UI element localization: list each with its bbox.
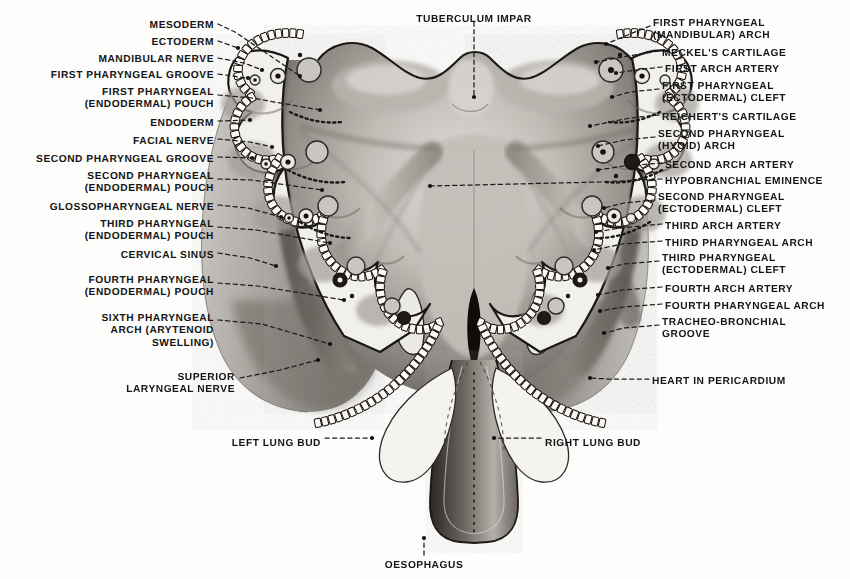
leader-second-arch-dot — [596, 144, 600, 148]
label-oesophagus: OESOPHAGUS — [274, 560, 574, 572]
ectoderm-cell — [317, 224, 326, 231]
leader-fourth-arch-dot — [598, 309, 602, 313]
ectoderm-cell — [376, 276, 385, 283]
leader-second-groove-dot — [250, 156, 254, 160]
leader-first-cleft-dot — [610, 95, 614, 99]
label-first-pharyngeal-arch: FIRST PHARYNGEAL (MANDIBULAR) ARCH — [653, 18, 850, 43]
label-left-lung-bud: LEFT LUNG BUD — [0, 438, 321, 450]
ectoderm-cell — [264, 187, 273, 194]
label-ectoderm: ECTODERM — [0, 37, 214, 49]
ectoderm-cell — [314, 418, 322, 428]
leader-third-artery-dot — [594, 230, 598, 234]
label-hypobranchial-eminence: HYPOBRANCHIAL EMINENCE — [665, 176, 850, 188]
leader-heart-dot — [588, 376, 592, 380]
label-second-pharyngeal-arch: SECOND PHARYNGEAL (HYOID) ARCH — [658, 129, 850, 154]
ectoderm-cell — [598, 418, 606, 428]
leader-fourth-artery-dot — [596, 293, 600, 297]
ectoderm-cell — [282, 29, 289, 38]
leader-ectoderm — [218, 41, 238, 48]
leader-reicherts-dot — [588, 124, 592, 128]
figure-canvas: TUBERCULUM IMPARMESODERMECTODERMMANDIBUL… — [0, 0, 850, 579]
ectoderm-cell — [647, 180, 656, 187]
leader-mandibular-nerve-dot — [260, 68, 264, 72]
leader-second-artery-dot — [596, 168, 600, 172]
leader-meckels-dot — [594, 60, 598, 64]
label-second-arch-artery: SECOND ARCH ARTERY — [665, 160, 850, 172]
ectoderm-cell — [234, 65, 243, 72]
label-right-lung-bud: RIGHT LUNG BUD — [545, 438, 850, 450]
leader-mesoderm-dot — [298, 74, 302, 78]
leader-first-artery-dot — [614, 71, 618, 75]
label-fourth-pharyngeal-pouch: FOURTH PHARYNGEAL (ENDODERMAL) POUCH — [0, 275, 214, 300]
label-fourth-arch-artery: FOURTH ARCH ARTERY — [665, 284, 850, 296]
ectoderm-cell — [535, 290, 544, 297]
ectoderm-cell — [647, 187, 656, 194]
label-third-pharyngeal-pouch: THIRD PHARYNGEAL (ENDODERMAL) POUCH — [0, 219, 214, 244]
label-tuberculum-impar: TUBERCULUM IMPAR — [324, 14, 624, 26]
label-heart-in-pericardium: HEART IN PERICARDIUM — [652, 376, 850, 388]
ectoderm-cell — [594, 224, 603, 231]
ectoderm-cell — [230, 124, 239, 130]
leader-ectoderm-dot — [236, 46, 240, 50]
ectoderm-cell — [275, 29, 282, 38]
ectoderm-cell — [504, 324, 512, 334]
label-reicherts-cartilage: REICHERT'S CARTILAGE — [662, 112, 850, 124]
leader-second-pouch-dot — [320, 188, 324, 192]
label-second-pharyngeal-cleft: SECOND PHARYNGEAL (ECTODERMAL) CLEFT — [658, 192, 850, 217]
leader-left-lung-bud-dot — [370, 436, 374, 440]
ectoderm-cell — [296, 29, 303, 38]
leader-first-pharyngeal-groove-dot — [246, 76, 250, 80]
ectoderm-cell — [535, 276, 544, 283]
leader-tuberculum-impar-dot — [472, 95, 476, 99]
leader-first-pouch-dot — [318, 108, 322, 112]
label-first-arch-artery: FIRST ARCH ARTERY — [665, 64, 850, 76]
label-facial-nerve: FACIAL NERVE — [0, 136, 214, 148]
leader-first-arch-dot — [604, 42, 608, 46]
ectoderm-cell — [264, 180, 273, 187]
label-second-pharyngeal-pouch: SECOND PHARYNGEAL (ENDODERMAL) POUCH — [0, 171, 214, 196]
ectoderm-cell — [591, 416, 599, 426]
label-first-pharyngeal-groove: FIRST PHARYNGEAL GROOVE — [0, 70, 214, 82]
leader-third-cleft-dot — [606, 266, 610, 270]
label-third-arch-artery: THIRD ARCH ARTERY — [665, 221, 850, 233]
label-superior-laryngeal-nerve: SUPERIOR LARYNGEAL NERVE — [0, 372, 235, 397]
ectoderm-cell — [616, 29, 623, 38]
label-tracheo-bronchial-groove: TRACHEO-BRONCHIAL GROOVE — [662, 317, 850, 342]
tuberculum-impar-shape — [448, 59, 493, 116]
label-first-pharyngeal-pouch: FIRST PHARYNGEAL (ENDODERMAL) POUCH — [0, 87, 214, 112]
label-first-pharyngeal-cleft: FIRST PHARYNGEAL (ECTODERMAL) CLEFT — [662, 81, 850, 106]
ectoderm-cell — [409, 324, 417, 334]
leader-endoderm-dot — [248, 118, 252, 122]
leader-third-pouch-dot — [328, 241, 332, 245]
ectoderm-cell — [376, 290, 385, 297]
leader-cervical-sinus-dot — [274, 264, 278, 268]
leader-right-lung-bud-dot — [492, 436, 496, 440]
ectoderm-cell — [321, 416, 329, 426]
label-meckels-cartilage: MECKEL'S CARTILAGE — [662, 48, 850, 60]
leader-facial-nerve-dot — [270, 145, 274, 149]
label-third-pharyngeal-cleft: THIRD PHARYNGEAL (ECTODERMAL) CLEFT — [662, 253, 850, 278]
leader-fourth-pouch-dot — [342, 298, 346, 302]
leader-third-arch-dot — [592, 248, 596, 252]
label-mandibular-nerve: MANDIBULAR NERVE — [0, 54, 214, 66]
leader-second-cleft-dot — [602, 206, 606, 210]
label-sixth-pharyngeal-arch: SIXTH PHARYNGEAL ARCH (ARYTENOID SWELLIN… — [0, 313, 214, 350]
ectoderm-cell — [376, 283, 385, 289]
label-third-pharyngeal-arch: THIRD PHARYNGEAL ARCH — [665, 238, 850, 250]
leader-glossopharyngeal-dot — [279, 215, 283, 219]
ectoderm-cell — [230, 116, 240, 124]
label-fourth-pharyngeal-arch: FOURTH PHARYNGEAL ARCH — [665, 301, 850, 313]
ectoderm-cell — [416, 325, 422, 334]
leader-hypobranchial-dot — [428, 184, 432, 188]
label-cervical-sinus: CERVICAL SINUS — [0, 250, 214, 262]
leader-heart — [590, 378, 649, 379]
ectoderm-cell — [497, 325, 503, 334]
leader-tracheo-groove-dot — [602, 331, 606, 335]
leader-oesophagus-dot — [422, 536, 426, 540]
label-endoderm: ENDODERM — [0, 118, 214, 130]
ectoderm-cell — [289, 29, 296, 38]
label-mesoderm: MESODERM — [0, 20, 214, 32]
leader-sixth-arch-dot — [328, 342, 332, 346]
ectoderm-cell — [536, 283, 545, 289]
label-glossopharyngeal-nerve: GLOSSOPHARYNGEAL NERVE — [0, 202, 214, 214]
